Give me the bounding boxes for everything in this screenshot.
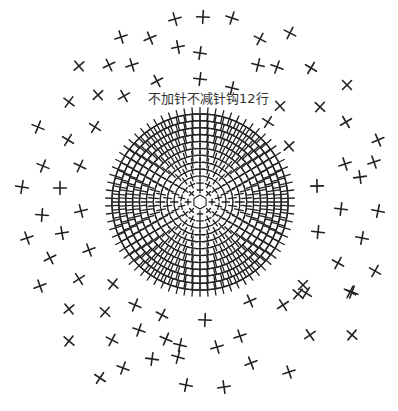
stitch-x-icon	[136, 242, 146, 252]
stitch-x-icon	[173, 246, 183, 256]
stitch-x-icon	[174, 231, 182, 239]
stitch-x-icon	[180, 248, 190, 258]
stitch-x-icon	[254, 152, 264, 162]
stitch-x-icon	[218, 231, 226, 239]
stitch-x-icon	[211, 341, 223, 353]
stitch-x-icon	[172, 260, 184, 272]
stitch-x-icon	[112, 163, 124, 175]
stitch-x-icon	[128, 229, 139, 240]
stitch-x-icon	[216, 281, 228, 293]
stitch-x-icon	[144, 32, 156, 44]
stitch-x-icon	[181, 234, 189, 242]
stitch-x-icon	[95, 373, 106, 384]
stitch-x-icon	[74, 61, 84, 71]
stitch-x-icon	[229, 220, 237, 228]
stitch-x-icon	[219, 174, 225, 180]
stitch-x-icon	[273, 236, 284, 247]
stitch-x-icon	[209, 138, 220, 149]
stitch-x-icon	[261, 164, 272, 175]
stitch-x-icon	[267, 232, 278, 243]
stitch-x-icon	[211, 161, 219, 169]
stitch-x-icon	[172, 281, 184, 293]
stitch-x-icon	[189, 182, 195, 188]
stitch-x-icon	[189, 223, 196, 230]
stitch-x-icon	[180, 379, 192, 391]
stitch-x-icon	[165, 120, 177, 132]
stitch-x-icon	[222, 198, 229, 205]
stitch-x-icon	[172, 253, 183, 264]
stitch-x-icon	[216, 267, 228, 279]
stitch-x-icon	[283, 366, 295, 378]
stitch-x-icon	[312, 226, 325, 239]
stitch-x-icon	[223, 272, 235, 284]
stitch-x-icon	[230, 116, 242, 128]
stitch-x-icon	[185, 199, 191, 205]
dense-stitch-disc	[106, 108, 295, 297]
stitch-x-icon	[54, 182, 67, 195]
stitch-x-icon	[32, 121, 44, 133]
stitch-x-icon	[197, 11, 210, 24]
stitch-x-icon	[205, 182, 211, 188]
stitch-x-icon	[153, 179, 162, 188]
stitch-x-icon	[152, 120, 163, 131]
stitch-x-icon	[182, 178, 188, 184]
stitch-x-icon	[160, 333, 172, 345]
stitch-x-icon	[144, 165, 154, 175]
stitch-x-icon	[218, 165, 226, 173]
stitch-x-icon	[229, 176, 237, 184]
stitch-x-icon	[218, 157, 227, 166]
stitch-x-icon	[237, 120, 248, 131]
stitch-x-icon	[176, 214, 182, 220]
stitch-x-icon	[216, 260, 228, 272]
stitch-x-icon	[75, 205, 87, 217]
stitch-x-icon	[212, 227, 219, 234]
stitch-x-icon	[278, 300, 289, 311]
stitch-x-icon	[183, 211, 188, 216]
stitch-x-icon	[169, 13, 181, 25]
stitch-x-icon	[270, 225, 282, 237]
stitch-x-icon	[106, 334, 117, 345]
stitch-x-icon	[238, 179, 247, 188]
stitch-x-icon	[36, 209, 49, 222]
stitch-x-icon	[249, 171, 259, 181]
stitch-x-icon	[157, 172, 165, 180]
stitch-x-icon	[210, 248, 220, 258]
stitch-x-icon	[197, 218, 204, 225]
stitch-x-icon	[298, 280, 307, 289]
stitch-x-icon	[210, 146, 220, 156]
stitch-x-icon	[163, 176, 171, 184]
stitch-x-icon	[234, 330, 246, 342]
stitch-x-icon	[252, 178, 263, 189]
stitch-x-icon	[74, 160, 86, 172]
stitch-x-icon	[216, 125, 228, 137]
stitch-x-icon	[180, 241, 189, 250]
stitch-x-icon	[172, 351, 184, 363]
stitch-x-icon	[134, 167, 145, 178]
stitch-x-icon	[252, 59, 264, 71]
stitch-x-icon	[93, 90, 102, 99]
stitch-x-icon	[206, 208, 210, 212]
stitch-x-icon	[212, 220, 218, 226]
stitch-x-icon	[210, 153, 219, 162]
stitch-x-icon	[204, 174, 211, 181]
stitch-x-icon	[217, 148, 227, 158]
stitch-x-icon	[267, 160, 278, 171]
stitch-x-icon	[212, 169, 219, 176]
stitch-x-icon	[354, 171, 367, 184]
stitch-x-icon	[372, 205, 384, 217]
stitch-x-icon	[116, 236, 127, 247]
stitch-x-icon	[339, 158, 351, 170]
stitch-x-icon	[252, 215, 263, 226]
stitch-x-icon	[199, 314, 212, 327]
stitch-x-icon	[172, 111, 184, 123]
stitch-x-icon	[245, 357, 257, 369]
stitch-x-icon	[197, 180, 204, 187]
stitch-x-icon	[172, 140, 183, 151]
stitch-x-icon	[188, 230, 196, 238]
stitch-x-icon	[284, 141, 294, 151]
stitch-x-icon	[83, 244, 95, 256]
stitch-x-icon	[117, 362, 129, 374]
stitch-x-icon	[189, 174, 196, 181]
stitch-x-icon	[118, 225, 130, 237]
stitch-x-icon	[368, 156, 380, 168]
